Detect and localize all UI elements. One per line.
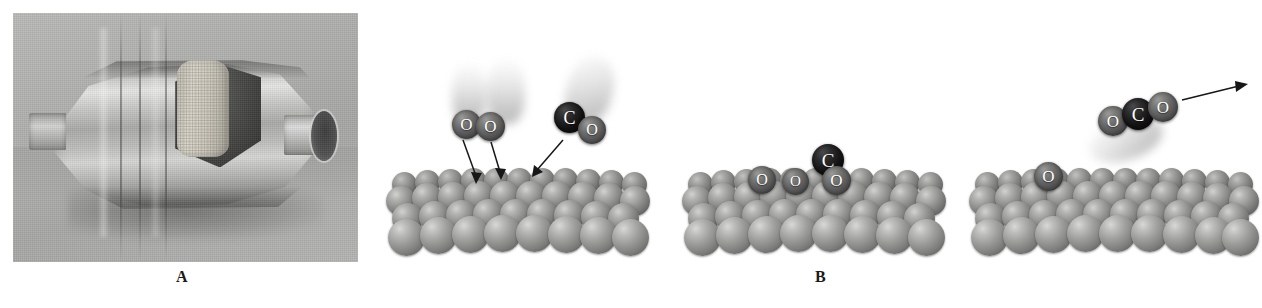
figure-catalytic-converter-co-oxidation: A bbox=[0, 0, 1262, 308]
panel-b-stage-desorption: O O C O bbox=[0, 0, 1262, 308]
arrow-co2-escape bbox=[1182, 81, 1248, 100]
panel-b-label: B bbox=[815, 268, 826, 286]
desorption-arrow bbox=[0, 0, 1262, 308]
